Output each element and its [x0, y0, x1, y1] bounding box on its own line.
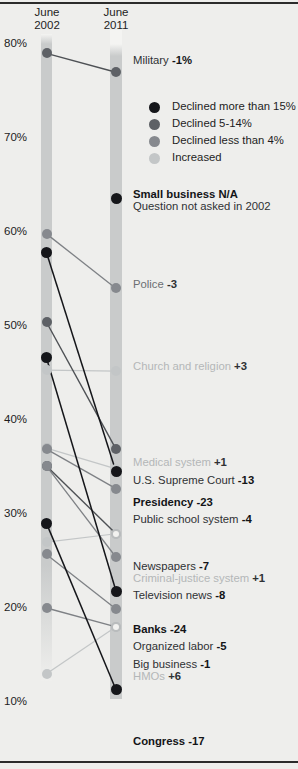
data-point-2011-criminal-justice-system — [111, 529, 121, 539]
slope-line-military — [47, 53, 117, 72]
legend-swatch-light-icon — [149, 153, 160, 164]
series-label-delta: +6 — [168, 670, 181, 682]
series-label-name: Presidency — [133, 496, 196, 508]
data-point-2011-small-business — [111, 193, 122, 204]
series-label-name: Television news — [133, 589, 215, 601]
series-label-name: Big business — [133, 658, 200, 670]
series-label-delta: -1% — [172, 54, 192, 66]
series-label-church-and-religion: Church and religion +3 — [133, 361, 247, 373]
slope-line-church-and-religion — [47, 370, 117, 371]
data-point-2002-police — [42, 229, 52, 239]
data-point-2002-congress — [41, 518, 52, 529]
series-label-delta: -7 — [199, 560, 209, 572]
data-point-2002-u-s-supreme-court — [42, 317, 52, 327]
slope-line-congress — [47, 523, 117, 689]
series-label-television-news: Television news -8 — [133, 590, 225, 602]
slope-line-television-news — [47, 466, 117, 557]
legend-label: Declined more than 15% — [172, 99, 296, 114]
slope-line-presidency — [47, 253, 117, 472]
series-label-delta: -3 — [167, 278, 177, 290]
series-label-big-business: Big business -1 — [133, 659, 210, 671]
series-label-delta: -5 — [217, 640, 227, 652]
slope-line-u-s-supreme-court — [47, 322, 117, 449]
series-label-small-business: Small business N/AQuestion not asked in … — [133, 189, 271, 212]
series-label-delta: +1 — [252, 572, 265, 584]
data-point-2002-military — [42, 48, 52, 58]
data-point-2002-criminal-justice-system — [42, 537, 52, 547]
data-point-2002-hmos — [42, 669, 52, 679]
series-label-name: Congress — [133, 735, 188, 747]
legend-label: Declined less than 4% — [172, 133, 284, 148]
series-label-public-school-system: Public school system -4 — [133, 514, 252, 526]
series-label-delta: -4 — [242, 513, 252, 525]
slope-line-police — [47, 234, 117, 289]
series-label-name: Small business — [133, 188, 218, 200]
series-label-delta: -8 — [215, 589, 225, 601]
slope-line-banks — [47, 358, 117, 591]
slope-line-organized-labor — [47, 554, 117, 609]
legend-swatch-dark-icon — [149, 119, 160, 130]
slope-line-medical-system — [47, 448, 117, 469]
legend-swatch-mid-icon — [149, 136, 160, 147]
slope-line-criminal-justice-system — [47, 534, 117, 542]
slope-lines — [0, 0, 298, 769]
slope-line-public-school-system — [47, 449, 117, 488]
series-label-delta: +1 — [214, 456, 227, 468]
series-label-newspapers: Newspapers -7 — [133, 561, 209, 573]
series-label-delta: +3 — [234, 360, 247, 372]
series-label-name: Medical system — [133, 456, 214, 468]
series-label-delta: N/A — [218, 188, 237, 200]
series-label-delta: -23 — [196, 496, 212, 508]
series-label-u-s-supreme-court: U.S. Supreme Court -13 — [133, 475, 254, 487]
series-label-name: Organized labor — [133, 640, 217, 652]
series-label-name: U.S. Supreme Court — [133, 474, 238, 486]
data-point-2002-public-school-system — [42, 444, 52, 454]
series-label-presidency: Presidency -23 — [133, 497, 213, 509]
series-label-hmos: HMOs +6 — [133, 671, 181, 683]
series-label-criminal-justice-system: Criminal-justice system +1 — [133, 573, 265, 585]
series-label-name: HMOs — [133, 670, 168, 682]
series-label-police: Police -3 — [133, 279, 177, 291]
data-point-2002-organized-labor — [42, 549, 52, 559]
legend-label: Increased — [172, 150, 222, 165]
legend-swatch-black-icon — [149, 102, 160, 113]
series-label-name: Criminal-justice system — [133, 572, 252, 584]
series-label-delta: -24 — [170, 623, 186, 635]
legend-label: Declined 5-14% — [172, 116, 252, 131]
data-point-2011-organized-labor — [111, 604, 121, 614]
slope-chart: June 2002 June 2011 80%70%60%50%40%30%20… — [0, 0, 298, 769]
series-label-name: Church and religion — [133, 360, 234, 372]
data-point-2011-public-school-system — [111, 484, 121, 494]
series-label-name: Military — [133, 54, 172, 66]
series-label-name: Newspapers — [133, 560, 199, 572]
series-label-name: Banks — [133, 623, 170, 635]
series-label-organized-labor: Organized labor -5 — [133, 641, 227, 653]
data-point-2002-church-and-religion — [42, 365, 52, 375]
data-point-2002-television-news — [42, 461, 52, 471]
series-label-medical-system: Medical system +1 — [133, 457, 227, 469]
data-point-2011-banks — [111, 586, 122, 597]
series-label-delta: -17 — [188, 735, 204, 747]
series-label-note: Question not asked in 2002 — [133, 201, 271, 213]
data-point-2011-hmos — [111, 622, 121, 632]
series-label-name: Police — [133, 278, 167, 290]
data-point-2011-congress — [111, 684, 122, 695]
series-label-military: Military -1% — [133, 55, 192, 67]
data-point-2011-presidency — [111, 466, 122, 477]
series-label-name: Public school system — [133, 513, 242, 525]
series-label-banks: Banks -24 — [133, 624, 186, 636]
series-label-delta: -13 — [238, 474, 254, 486]
series-label-congress: Congress -17 — [133, 736, 205, 748]
slope-line-big-business — [47, 608, 117, 627]
series-label-delta: -1 — [200, 658, 210, 670]
data-point-2002-big-business — [42, 603, 52, 613]
